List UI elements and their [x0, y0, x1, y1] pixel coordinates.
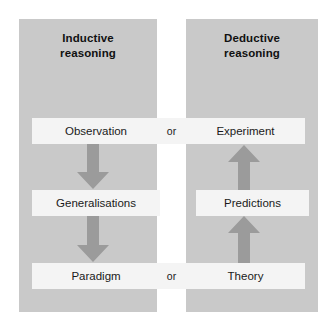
connector-or-top: or	[157, 118, 186, 144]
reasoning-diagram: Inductive reasoning Deductive reasoning …	[0, 0, 336, 328]
node-observation: Observation	[32, 118, 160, 144]
node-theory: Theory	[186, 263, 305, 289]
arrow-theory-to-predictions	[227, 215, 261, 263]
node-generalisations: Generalisations	[32, 190, 160, 216]
heading-inductive-reasoning: Inductive reasoning	[19, 31, 157, 61]
arrow-generalisations-to-paradigm	[76, 215, 110, 263]
node-paradigm: Paradigm	[32, 263, 160, 289]
arrow-observation-to-generalisations	[76, 144, 110, 190]
node-experiment: Experiment	[186, 118, 305, 144]
connector-or-bottom: or	[157, 263, 186, 289]
arrow-predictions-to-experiment	[227, 144, 261, 190]
heading-deductive-reasoning: Deductive reasoning	[186, 31, 318, 61]
node-predictions: Predictions	[196, 190, 309, 216]
